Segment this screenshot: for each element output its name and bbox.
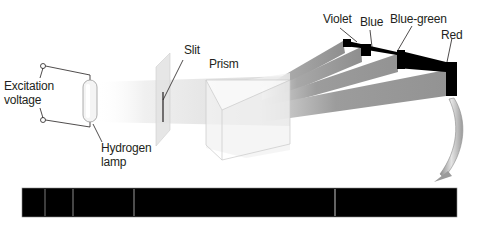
prism — [206, 73, 290, 160]
red-label: Red — [441, 29, 462, 42]
violet-label: Violet — [323, 13, 352, 26]
violet-line-block — [343, 39, 351, 47]
spectroscope-diagram: Excitation voltage Hydrogen lamp Slit Pr… — [0, 0, 480, 232]
blue-label: Blue — [360, 16, 383, 29]
prism-label: Prism — [209, 58, 239, 71]
excitation-label: Excitation — [4, 80, 54, 93]
terminal-top-icon — [41, 64, 46, 69]
terminal-bottom-icon — [41, 118, 46, 123]
hydrogen-label: Hydrogen — [101, 142, 151, 155]
blue-line-block — [361, 44, 371, 56]
voltage-label: voltage — [4, 94, 41, 107]
slit-label: Slit — [184, 44, 200, 57]
emission-spectrum — [22, 188, 457, 217]
excitation-circuit — [40, 64, 90, 128]
diagram-graphics — [0, 0, 480, 232]
blue-green-line-block — [397, 50, 405, 69]
red-line-block — [446, 62, 457, 96]
dispersed-beams — [262, 39, 457, 128]
lamp-label: lamp — [101, 156, 126, 169]
blue-green-label: Blue-green — [390, 13, 447, 26]
